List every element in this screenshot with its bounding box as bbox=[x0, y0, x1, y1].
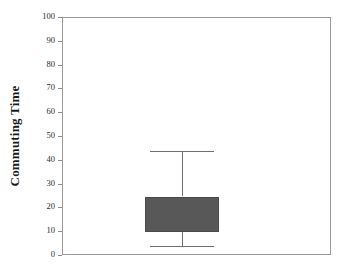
y-axis-tick-label: 30 bbox=[47, 178, 56, 188]
y-axis-tick-mark bbox=[58, 255, 62, 256]
y-axis-tick-label: 80 bbox=[47, 59, 56, 69]
y-axis-tick-label: 20 bbox=[47, 201, 56, 211]
y-axis-tick-label: 50 bbox=[47, 130, 56, 140]
box-iqr-rect bbox=[145, 197, 219, 233]
y-axis-tick-label: 60 bbox=[47, 106, 56, 116]
y-axis-tick-label: 10 bbox=[47, 225, 56, 235]
boxplot-figure: Commuting Time 0102030405060708090100 bbox=[0, 0, 348, 270]
y-axis-ticks: 0102030405060708090100 bbox=[0, 0, 62, 270]
y-axis-tick-label: 0 bbox=[51, 249, 55, 259]
upper-whisker-line bbox=[182, 151, 183, 196]
y-axis-tick-label: 70 bbox=[47, 82, 56, 92]
upper-whisker-cap bbox=[150, 151, 214, 152]
y-axis-tick-label: 90 bbox=[47, 35, 56, 45]
y-axis-tick-label: 40 bbox=[47, 154, 56, 164]
y-axis-tick-label: 100 bbox=[42, 11, 55, 21]
lower-whisker-cap bbox=[150, 246, 214, 247]
plot-frame bbox=[62, 17, 331, 255]
lower-whisker-line bbox=[182, 232, 183, 246]
boxplot-series bbox=[63, 18, 330, 254]
